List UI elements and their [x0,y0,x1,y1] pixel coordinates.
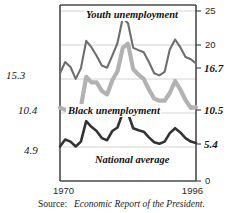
unemployment-chart-figure: Youth unemployment Black unemployment Na… [0,0,242,213]
series-label-national: National average [94,154,170,165]
right-axis-labels: 25 20 16.7 10.5 5.4 0 [204,5,224,186]
right-label-20: 20 [205,39,216,50]
caption-source-title: Economic Report of the President. [73,199,205,209]
x-axis-labels: 1970 1996 [53,185,203,196]
right-label-black-end: 10.5 [204,104,224,116]
series-line-national [60,113,196,147]
caption-prefix: Source: [38,199,67,209]
right-label-youth-end: 16.7 [204,62,224,74]
left-label-youth: 15.3 [6,69,26,81]
right-label-0: 0 [205,175,210,186]
right-label-national-end: 5.4 [204,138,218,150]
x-label-end: 1996 [182,185,203,196]
series-label-youth: Youth unemployment [86,9,179,20]
left-label-national: 4.9 [24,144,38,156]
left-label-black: 10.4 [18,104,38,116]
left-axis-labels: 15.3 10.4 4.9 [6,69,38,156]
right-label-25: 25 [205,5,216,16]
series-label-black: Black unemployment [67,105,161,116]
